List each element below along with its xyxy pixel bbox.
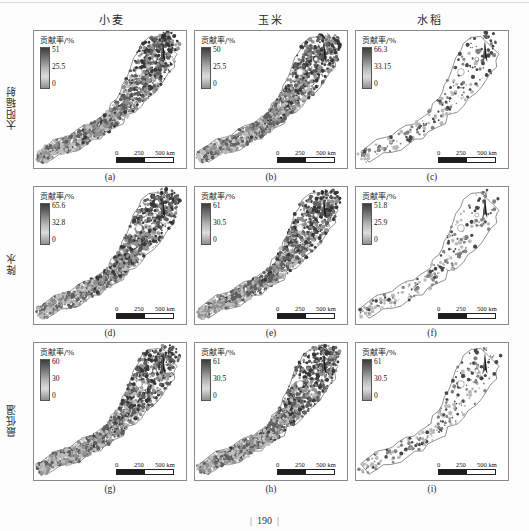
scale-segment-4 [320, 470, 334, 474]
scale-segment-4 [481, 158, 495, 162]
legend-tick-max: 61 [374, 358, 382, 366]
legend-body: 50 25.5 0 [201, 47, 247, 89]
scale-label-0: 0 [276, 148, 279, 157]
panel-cell-e: 贡献率/% 61 30.5 0 N0250500 km(e) [194, 186, 348, 342]
map-panel-g[interactable]: 贡献率/% 60 30 0 N0250500 km [33, 342, 187, 481]
legend-tick-labels: 51.8 25.9 0 [374, 203, 408, 243]
scale-segment-3 [467, 470, 481, 474]
row-label-precipitation-text: 降水 [4, 253, 19, 275]
scale-label-mid: 250 [456, 460, 466, 469]
row-label-min-temperature-text: 最低温 [4, 404, 19, 437]
scale-bar: 0250500 km [115, 304, 181, 319]
panel-caption-d: (d) [33, 325, 187, 342]
footer-rule-right: | [272, 515, 284, 526]
legend-tick-max: 60 [52, 358, 60, 366]
legend-color-ramp [362, 203, 372, 245]
legend-title: 贡献率/% [201, 36, 247, 46]
legend-color-ramp [201, 203, 211, 245]
scale-segment-1 [439, 314, 453, 318]
north-arrow-icon [478, 352, 492, 380]
column-header-wheat: 小麦 [33, 12, 192, 30]
scale-label-max: 500 km [477, 148, 497, 157]
north-arrow-icon [317, 352, 331, 380]
panel-caption-c: (c) [355, 169, 509, 186]
scale-label-mid: 250 [134, 304, 144, 313]
scale-segment-1 [117, 158, 131, 162]
map-panel-h[interactable]: 贡献率/% 61 30.5 0 N0250500 km [194, 342, 348, 481]
scale-label-max: 500 km [155, 148, 175, 157]
scale-bar-labels: 0250500 km [276, 148, 342, 157]
north-arrow: N [317, 34, 331, 64]
legend-tick-mid: 25.5 [52, 63, 65, 71]
legend-color-ramp [40, 203, 50, 245]
panel-cell-d: 贡献率/% 65.6 32.8 0 N0250500 km(d) [33, 186, 187, 342]
scale-segment-2 [292, 470, 306, 474]
legend-body: 66.3 33.15 0 [362, 47, 408, 89]
scale-label-max: 500 km [155, 304, 175, 313]
legend-tick-min: 0 [213, 236, 217, 244]
scale-segment-2 [453, 314, 467, 318]
scale-segment-2 [292, 158, 306, 162]
panel-row-3: 贡献率/% 60 30 0 N0250500 km(g)贡献率/% 61 30.… [33, 342, 509, 498]
legend-title: 贡献率/% [40, 348, 86, 358]
map-panel-b[interactable]: 贡献率/% 50 25.5 0 N0250500 km [194, 30, 348, 169]
map-panel-a[interactable]: 贡献率/% 51 25.5 0 N0250500 km [33, 30, 187, 169]
scale-segment-3 [145, 158, 159, 162]
scale-bar-track [277, 469, 335, 475]
row-label-solar-radiation: 太阳辐射 [0, 30, 22, 186]
scale-bar-labels: 0250500 km [115, 148, 181, 157]
panel-caption-a: (a) [33, 169, 187, 186]
map-panel-e[interactable]: 贡献率/% 61 30.5 0 N0250500 km [194, 186, 348, 325]
scale-segment-4 [159, 470, 173, 474]
legend-tick-min: 0 [213, 80, 217, 88]
legend-body: 51.8 25.9 0 [362, 203, 408, 245]
scale-segment-4 [320, 314, 334, 318]
scale-segment-3 [306, 158, 320, 162]
legend-tick-mid: 30.5 [213, 219, 226, 227]
legend-color-ramp [362, 47, 372, 89]
legend-tick-mid: 30.5 [374, 375, 387, 383]
panel-caption-g: (g) [33, 481, 187, 498]
scale-label-0: 0 [115, 304, 118, 313]
scale-bar: 0250500 km [115, 460, 181, 475]
scale-bar-track [277, 313, 335, 319]
scale-bar-labels: 0250500 km [115, 460, 181, 469]
legend-tick-mid: 32.8 [52, 219, 65, 227]
map-panel-d[interactable]: 贡献率/% 65.6 32.8 0 N0250500 km [33, 186, 187, 325]
scale-label-max: 500 km [155, 460, 175, 469]
scale-label-mid: 250 [295, 460, 305, 469]
legend: 贡献率/% 60 30 0 [40, 348, 86, 401]
legend-color-ramp [201, 47, 211, 89]
scale-segment-1 [439, 470, 453, 474]
scale-label-0: 0 [437, 148, 440, 157]
map-panel-i[interactable]: 贡献率/% 61 30.5 0 N0250500 km [355, 342, 509, 481]
scale-label-mid: 250 [295, 148, 305, 157]
legend-body: 61 30.5 0 [201, 359, 247, 401]
north-arrow: N [317, 346, 331, 376]
scale-segment-4 [481, 470, 495, 474]
panel-cell-i: 贡献率/% 61 30.5 0 N0250500 km(i) [355, 342, 509, 498]
scale-label-max: 500 km [316, 460, 336, 469]
scale-label-0: 0 [115, 148, 118, 157]
scale-bar: 0250500 km [276, 304, 342, 319]
page-number: 190 [257, 515, 272, 526]
legend-body: 60 30 0 [40, 359, 86, 401]
legend: 贡献率/% 51.8 25.9 0 [362, 192, 408, 245]
legend: 贡献率/% 66.3 33.15 0 [362, 36, 408, 89]
north-arrow-icon [156, 196, 170, 224]
map-panel-f[interactable]: 贡献率/% 51.8 25.9 0 N0250500 km [355, 186, 509, 325]
legend-tick-min: 0 [374, 236, 378, 244]
scale-bar: 0250500 km [437, 460, 503, 475]
north-arrow-icon [317, 40, 331, 68]
legend: 贡献率/% 65.6 32.8 0 [40, 192, 86, 245]
panel-caption-f: (f) [355, 325, 509, 342]
scale-bar-track [277, 157, 335, 163]
north-arrow: N [317, 190, 331, 220]
scale-segment-4 [159, 158, 173, 162]
map-panel-c[interactable]: 贡献率/% 66.3 33.15 0 N0250500 km [355, 30, 509, 169]
panel-cell-c: 贡献率/% 66.3 33.15 0 N0250500 km(c) [355, 30, 509, 186]
scale-segment-3 [306, 470, 320, 474]
legend-color-ramp [362, 359, 372, 401]
panel-caption-i: (i) [355, 481, 509, 498]
legend-tick-labels: 60 30 0 [52, 359, 86, 399]
